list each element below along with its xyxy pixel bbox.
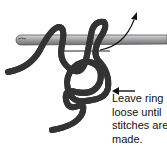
annotation-text: Leave ring loose until stitches are made… [112,92,167,146]
annotation-line: stitches are [112,119,167,133]
crochet-diagram: Leave ring loose until stitches are made… [0,0,167,148]
annotation-line: Leave ring [112,92,167,106]
annotation-line: loose until [112,106,167,120]
annotation-line: made. [112,133,167,147]
